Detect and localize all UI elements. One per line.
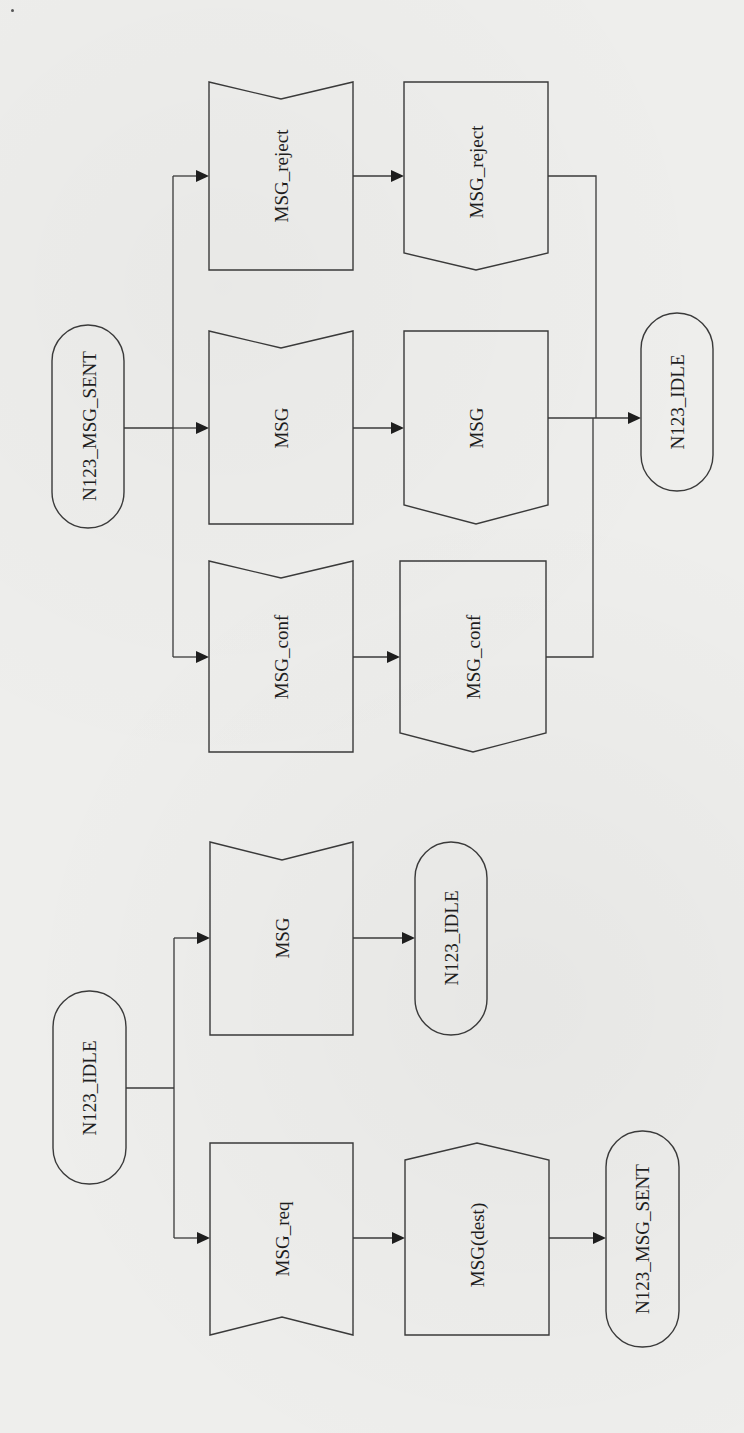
- state-label: N123_IDLE: [441, 891, 462, 986]
- input-signal-msg-req: MSG_req: [210, 1143, 353, 1335]
- signal-label: MSG(dest): [467, 1203, 489, 1287]
- arrow-icon: [391, 170, 404, 182]
- state-n123-idle-end: N123_IDLE: [641, 313, 713, 491]
- arrow-icon: [593, 1232, 606, 1244]
- merge-line-conf: [546, 418, 593, 657]
- arrow-icon: [392, 1232, 405, 1244]
- arrow-icon: [387, 651, 400, 663]
- arrow-icon: [197, 1232, 210, 1244]
- sdl-diagram: N123_MSG_SENT MSG_reject MSG_reject MSG: [0, 0, 744, 1433]
- state-n123-msg-sent-end: N123_MSG_SENT: [606, 1131, 679, 1347]
- arrow-icon: [196, 170, 209, 182]
- signal-label: MSG_conf: [271, 614, 292, 699]
- state-label: N123_MSG_SENT: [79, 351, 100, 501]
- output-signal-msg-dest: MSG(dest): [405, 1143, 549, 1335]
- signal-label: MSG_req: [272, 1201, 293, 1276]
- state-label: N123_MSG_SENT: [632, 1164, 653, 1314]
- input-signal-msg-reject: MSG_reject: [209, 82, 353, 270]
- arrow-icon: [391, 422, 404, 434]
- signal-label: MSG_reject: [271, 129, 292, 223]
- input-signal-msg-idle: MSG: [210, 842, 353, 1035]
- scanned-page: N123_MSG_SENT MSG_reject MSG_reject MSG: [0, 0, 744, 1433]
- arrow-icon: [628, 412, 641, 424]
- merge-line-reject: [548, 176, 596, 418]
- output-signal-msg: MSG: [404, 331, 548, 524]
- state-n123-idle-start: N123_IDLE: [53, 991, 126, 1184]
- output-signal-msg-reject: MSG_reject: [404, 82, 548, 270]
- arrow-icon: [196, 422, 209, 434]
- input-signal-msg: MSG: [209, 331, 353, 524]
- output-signal-msg-conf: MSG_conf: [400, 561, 546, 752]
- arrow-icon: [197, 932, 210, 944]
- signal-label: MSG: [466, 407, 487, 448]
- arrow-icon: [196, 651, 209, 663]
- state-n123-idle-loop-end: N123_IDLE: [415, 842, 487, 1035]
- signal-label: MSG: [271, 407, 292, 448]
- state-label: N123_IDLE: [667, 355, 688, 450]
- signal-label: MSG_reject: [466, 125, 487, 219]
- signal-label: MSG_conf: [463, 614, 484, 699]
- input-signal-msg-conf: MSG_conf: [209, 561, 353, 752]
- state-n123-msg-sent-start: N123_MSG_SENT: [52, 325, 124, 528]
- signal-label: MSG: [272, 917, 293, 958]
- arrow-icon: [402, 932, 415, 944]
- state-label: N123_IDLE: [79, 1041, 100, 1136]
